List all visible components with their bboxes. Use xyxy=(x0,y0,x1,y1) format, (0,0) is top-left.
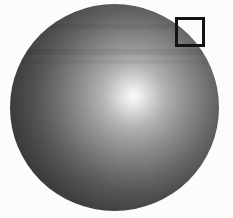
scan-artifact-band xyxy=(10,60,219,64)
scan-artifact-band xyxy=(10,49,219,55)
roi-selection-box xyxy=(175,17,205,47)
figure-canvas xyxy=(0,0,233,218)
